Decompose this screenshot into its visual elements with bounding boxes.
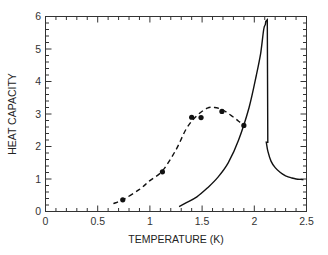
series-layer <box>113 20 303 207</box>
data-point <box>120 197 125 202</box>
chart: 00.511.522.5 0123456 TEMPERATURE (K) HEA… <box>0 0 328 255</box>
y-tick-label: 1 <box>35 173 41 185</box>
y-tick-label: 6 <box>35 10 41 22</box>
x-tick-label: 1.5 <box>195 215 210 227</box>
x-tick-label: 1 <box>147 215 153 227</box>
x-tick-label: 0.5 <box>90 215 105 227</box>
solid-curve <box>179 20 303 207</box>
y-tick-labels: 0123456 <box>35 10 41 217</box>
dashed-curve <box>113 107 244 204</box>
y-axis-title: HEAT CAPACITY <box>6 73 18 155</box>
data-point <box>160 169 165 174</box>
y-tick-label: 2 <box>35 140 41 152</box>
data-point <box>198 115 203 120</box>
y-tick-label: 5 <box>35 43 41 55</box>
data-point <box>189 115 194 120</box>
y-tick-label: 3 <box>35 108 41 120</box>
x-tick-labels: 00.511.522.5 <box>43 215 314 227</box>
x-tick-label: 2.5 <box>299 215 314 227</box>
x-tick-label: 2 <box>251 215 257 227</box>
data-point <box>219 109 224 114</box>
y-tick-label: 4 <box>35 75 41 87</box>
y-tick-label: 0 <box>35 205 41 217</box>
x-tick-label: 0 <box>43 215 49 227</box>
x-axis-title: TEMPERATURE (K) <box>128 233 223 245</box>
